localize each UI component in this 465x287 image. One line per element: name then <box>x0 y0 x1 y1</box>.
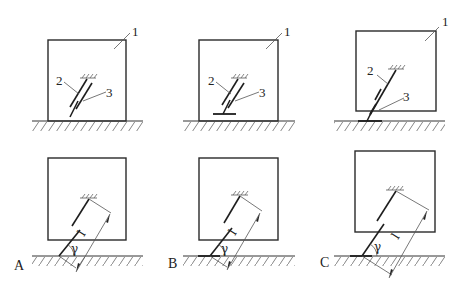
hinge-hatch <box>390 65 405 69</box>
ground-hatch <box>32 257 143 266</box>
leader-3 <box>379 98 404 110</box>
panel-top-left: 1 2 3 <box>32 24 143 131</box>
angle-gamma: γ <box>71 242 78 256</box>
panel-top-right: 1 2 3 <box>334 14 449 131</box>
label-1: 1 <box>442 14 449 29</box>
length-l: l <box>75 228 89 239</box>
arrow-head-top <box>423 211 427 220</box>
leader-3 <box>235 92 259 101</box>
dimension-line-l <box>389 211 427 278</box>
arrow-head-top <box>106 214 110 223</box>
leader-2 <box>64 82 79 94</box>
strut-2 <box>70 79 87 107</box>
variant-label-a: A <box>14 258 25 273</box>
ground-hatch <box>334 122 445 131</box>
label-1: 1 <box>132 24 139 39</box>
hinge-hatch <box>388 186 403 190</box>
variant-label-b: B <box>168 256 177 271</box>
ground-hatch <box>334 257 445 266</box>
strut-2b <box>228 83 244 108</box>
panel-variant-c: γ l C <box>320 151 445 278</box>
length-l: l <box>226 227 240 238</box>
extension-line-top <box>396 191 429 210</box>
leader-1 <box>266 33 282 49</box>
strut-2b <box>76 83 92 109</box>
strut-lower <box>367 111 372 121</box>
strut-upper <box>377 191 396 221</box>
diagram-canvas: 1 2 3 1 2 3 <box>0 0 465 287</box>
block <box>48 158 126 240</box>
hinge-hatch <box>82 194 97 198</box>
angle-gamma: γ <box>221 242 228 256</box>
angle-gamma: γ <box>374 240 381 254</box>
strut-upper <box>72 199 89 226</box>
label-3: 3 <box>106 85 113 100</box>
label-2: 2 <box>208 73 215 88</box>
strut-upper <box>224 196 240 223</box>
leader-1 <box>425 27 439 41</box>
ground-hatch <box>183 122 295 131</box>
label-2: 2 <box>56 73 63 88</box>
label-3: 3 <box>403 89 410 104</box>
leader-1 <box>114 33 130 49</box>
ground-hatch <box>183 257 295 266</box>
hinge-hatch <box>233 191 248 195</box>
label-1: 1 <box>284 24 291 39</box>
panel-variant-a: γ l A <box>14 158 143 273</box>
label-2: 2 <box>367 63 374 78</box>
arrow-head-top <box>256 213 260 222</box>
hinge-hatch <box>233 74 248 78</box>
leader-2 <box>216 82 231 94</box>
panel-variant-b: γ l B <box>168 158 295 271</box>
hinge-hatch <box>82 74 97 78</box>
variant-label-c: C <box>320 255 329 270</box>
panel-top-middle: 1 2 3 <box>183 24 295 131</box>
extension-line-top <box>89 199 111 213</box>
leader-2 <box>377 75 388 84</box>
ground-hatch <box>32 122 143 131</box>
extension-line-top <box>240 196 262 211</box>
label-3: 3 <box>259 85 266 100</box>
